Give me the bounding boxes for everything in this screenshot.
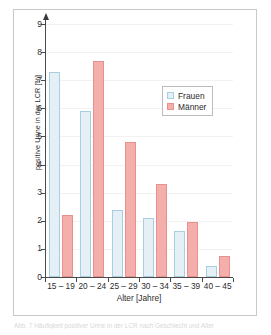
bar-frauen-3[interactable] — [143, 218, 154, 277]
x-tick-mark — [139, 278, 140, 282]
y-tick-label: 7 — [37, 75, 42, 86]
y-axis-label: positive Urine in der LCR [%] — [33, 43, 42, 203]
bar-frauen-0[interactable] — [49, 72, 60, 277]
figure-frame: positive Urine in der LCR [%] 0123456789… — [13, 9, 257, 316]
y-tick-label: 6 — [37, 103, 42, 114]
bar-frauen-4[interactable] — [174, 231, 185, 277]
bar-group: 40 – 45 — [204, 24, 233, 277]
y-tick-label: 2 — [37, 215, 42, 226]
legend-label-maenner: Männer — [178, 102, 206, 112]
x-tick-mark — [108, 278, 109, 282]
x-tick-label: 40 – 45 — [195, 281, 241, 291]
bar-manner-4[interactable] — [187, 222, 198, 277]
legend-item-frauen: Frauen — [167, 90, 206, 101]
bar-manner-2[interactable] — [125, 142, 136, 277]
bar-group: 25 – 29 — [110, 24, 139, 277]
y-axis-line — [45, 18, 46, 278]
chart-canvas: positive Urine in der LCR [%] 0123456789… — [14, 10, 256, 315]
x-tick-mark — [76, 278, 77, 282]
plot-area: 0123456789 15 – 1920 – 2425 – 2930 – 343… — [45, 24, 233, 278]
x-tick-mark — [45, 278, 46, 282]
bar-manner-1[interactable] — [93, 61, 104, 277]
figure-caption: Abb. 7 Häufigkeit positiver Urine in der… — [14, 322, 264, 329]
y-tick-label: 4 — [37, 159, 42, 170]
x-axis-label: Alter [Jahre] — [45, 293, 233, 303]
bar-group: 30 – 34 — [141, 24, 170, 277]
x-tick-mark — [202, 278, 203, 282]
y-tick-label: 8 — [37, 47, 42, 58]
legend-label-frauen: Frauen — [178, 91, 205, 101]
y-axis-arrow-icon — [43, 13, 49, 20]
y-tick-label: 1 — [37, 243, 42, 254]
bar-frauen-5[interactable] — [206, 266, 217, 277]
legend-swatch-frauen — [167, 92, 174, 99]
y-tick-label: 3 — [37, 187, 42, 198]
bar-manner-3[interactable] — [156, 184, 167, 277]
x-tick-mark — [233, 278, 234, 282]
x-tick-mark — [170, 278, 171, 282]
bar-frauen-1[interactable] — [80, 111, 91, 277]
y-tick-label: 5 — [37, 131, 42, 142]
bar-manner-0[interactable] — [62, 215, 73, 277]
y-tick-label: 9 — [37, 19, 42, 30]
legend-swatch-maenner — [167, 103, 174, 110]
bar-group: 35 – 39 — [172, 24, 201, 277]
bar-frauen-2[interactable] — [112, 210, 123, 277]
bar-manner-5[interactable] — [219, 256, 230, 277]
bar-group: 20 – 24 — [78, 24, 107, 277]
bar-group: 15 – 19 — [47, 24, 76, 277]
legend: Frauen Männer — [162, 86, 213, 116]
legend-item-maenner: Männer — [167, 101, 206, 112]
